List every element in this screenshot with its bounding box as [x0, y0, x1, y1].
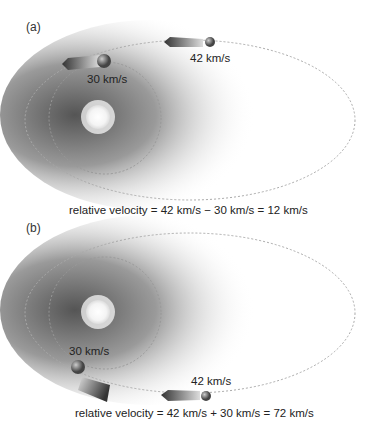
earth-icon [97, 54, 111, 68]
earth-speed-label: 30 km/s [69, 345, 109, 357]
earth-speed-label: 30 km/s [87, 73, 127, 85]
shadow-region [0, 215, 300, 405]
velocity-arrow-icon [161, 390, 200, 401]
diagram-a [0, 0, 383, 215]
comet-speed-label: 42 km/s [191, 375, 231, 387]
panel-b: (b) 30 km/s 42 km/s relative velocity = … [0, 215, 383, 429]
panel-label: (b) [26, 221, 41, 235]
caption: relative velocity = 42 km/s + 30 km/s = … [75, 407, 314, 419]
earth-icon [71, 360, 85, 374]
diagram-b [0, 215, 383, 429]
comet-speed-label: 42 km/s [190, 52, 230, 64]
comet-icon [205, 37, 215, 47]
panel-a: (a) 30 km/s 42 km/s relative velocity = … [0, 0, 383, 215]
sun-icon [81, 295, 115, 329]
sun-icon [81, 100, 115, 134]
shadow-region [0, 20, 300, 210]
panel-label: (a) [26, 20, 41, 34]
comet-icon [201, 391, 211, 401]
